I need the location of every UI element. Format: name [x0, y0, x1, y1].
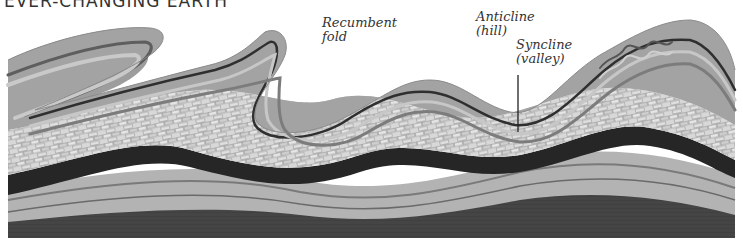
label-syncline-line1: Syncline: [516, 38, 572, 52]
label-recumbent-line2: fold: [322, 30, 397, 44]
label-recumbent-line1: Recumbent: [322, 16, 397, 30]
label-syncline-line2: (valley): [516, 52, 572, 66]
label-anticline: Anticline (hill): [476, 10, 535, 38]
label-anticline-line2: (hill): [476, 24, 535, 38]
label-recumbent-fold: Recumbent fold: [322, 16, 397, 44]
label-anticline-line1: Anticline: [476, 10, 535, 24]
label-syncline: Syncline (valley): [516, 38, 572, 66]
